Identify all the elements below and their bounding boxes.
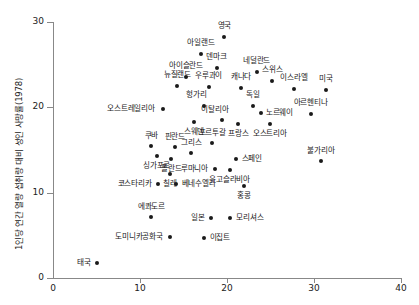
y-axis-line	[53, 22, 54, 278]
data-point-label: 이스라엘	[280, 74, 307, 82]
data-point	[242, 184, 246, 188]
data-point-label: 아이슬란드	[169, 62, 203, 70]
data-point	[174, 182, 178, 186]
data-point-label: 모리셔스	[236, 214, 263, 222]
data-point	[213, 167, 217, 171]
data-point-label: 그리스	[181, 139, 201, 147]
data-point-label: 오스트레일리아	[107, 105, 154, 113]
data-point-label: 태국	[77, 259, 91, 267]
y-tick-label: 10	[20, 188, 44, 197]
y-tick-label: 30	[20, 17, 44, 26]
data-point	[324, 88, 328, 92]
data-point-label: 스위스	[262, 66, 282, 74]
data-point	[199, 52, 203, 56]
data-point-label: 캐나다	[231, 73, 251, 81]
data-point	[251, 104, 255, 108]
y-tick-mark	[47, 22, 53, 23]
data-point	[292, 87, 296, 91]
data-point	[228, 168, 232, 172]
data-point-label: 미국	[319, 75, 333, 83]
data-point	[234, 157, 238, 161]
data-point	[155, 154, 159, 158]
data-point	[169, 157, 173, 161]
data-point-label: 일본	[191, 214, 205, 222]
data-point-label: 베네수엘라	[182, 180, 216, 188]
data-point	[149, 215, 153, 219]
data-point	[175, 84, 179, 88]
data-point-label: 아일랜드	[187, 39, 214, 47]
data-point-label: 오스트리아	[253, 130, 287, 138]
data-point	[207, 85, 211, 89]
data-point	[149, 144, 153, 148]
data-point	[270, 79, 274, 83]
y-tick-mark	[47, 107, 53, 108]
data-point-label: 아르헨티나	[294, 99, 328, 107]
x-tick-label: 30	[302, 283, 326, 293]
data-point-label: 포르투갈	[199, 129, 226, 137]
data-point	[168, 172, 172, 176]
data-point-label: 노르웨이	[266, 109, 293, 117]
data-point	[239, 86, 243, 90]
y-tick-mark	[47, 278, 53, 279]
data-point	[228, 216, 232, 220]
data-point-label: 덴마크	[206, 53, 226, 61]
y-tick-mark	[47, 193, 53, 194]
x-tick-label: 20	[215, 283, 239, 293]
data-point-label: 헝가리	[186, 91, 206, 99]
data-point	[189, 151, 193, 155]
data-point-label: 이집트	[210, 234, 230, 242]
data-point-label: 스페인	[242, 155, 262, 163]
data-point	[220, 118, 224, 122]
data-point	[222, 35, 226, 39]
data-point-label: 코스타리카	[118, 180, 152, 188]
data-point	[319, 159, 323, 163]
x-tick-label: 10	[128, 283, 152, 293]
data-point	[95, 261, 99, 265]
x-tick-label: 0	[41, 283, 65, 293]
data-point	[259, 111, 263, 115]
data-point-label: 독일	[246, 91, 260, 99]
data-point	[156, 182, 160, 186]
data-point	[210, 141, 214, 145]
data-point	[161, 107, 165, 111]
data-point	[215, 66, 219, 70]
data-point-label: 에콰도르	[138, 203, 165, 211]
data-point-label: 도미니카공화국	[115, 233, 162, 241]
data-point-label: 프랑스	[228, 130, 248, 138]
data-point-label: 뉴질랜드	[164, 71, 191, 79]
data-point	[309, 112, 313, 116]
data-point	[168, 235, 172, 239]
data-point-label: 싱가포르	[143, 162, 170, 170]
y-tick-label: 20	[20, 102, 44, 111]
data-point	[192, 120, 196, 124]
data-point	[255, 70, 259, 74]
data-point-label: 불가리아	[307, 147, 334, 155]
data-point-label: 영국	[218, 22, 232, 30]
data-point	[236, 122, 240, 126]
scatter-chart: 1인당 연간 열량 섭취량 대비 성인 사망률(1978) 0102030 01…	[0, 0, 419, 305]
data-point	[268, 122, 272, 126]
y-axis-title: 1인당 연간 열량 섭취량 대비 성인 사망률(1978)	[12, 50, 24, 250]
data-point-label: 루마니아	[181, 165, 208, 173]
data-point-label: 쿠바	[145, 132, 159, 140]
data-point-label: 우루과이	[195, 72, 222, 80]
data-point-label: 이탈리아	[201, 106, 228, 114]
data-point	[173, 145, 177, 149]
x-tick-label: 40	[389, 283, 413, 293]
data-point-label: 홍콩	[237, 192, 251, 200]
y-tick-label: 0	[20, 273, 44, 282]
data-point	[202, 236, 206, 240]
data-point	[209, 216, 213, 220]
